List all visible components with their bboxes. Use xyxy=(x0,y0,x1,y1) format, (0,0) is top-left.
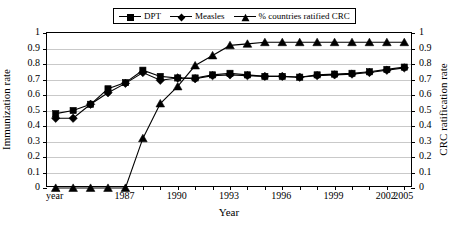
x-axis-title: Year xyxy=(46,206,412,218)
y-left-ticklabel: 0.9 xyxy=(10,43,40,53)
x-ticklabel: 1990 xyxy=(154,190,200,201)
legend-key-triangle xyxy=(234,12,256,21)
x-ticklabel: 1999 xyxy=(311,190,357,201)
series-layer xyxy=(47,33,413,188)
x-ticklabel: 1996 xyxy=(258,190,304,201)
y-right-ticklabel: 0.5 xyxy=(419,105,449,115)
data-point xyxy=(139,134,148,142)
square-marker-icon xyxy=(126,13,135,24)
legend-key-square xyxy=(119,12,141,21)
legend-item-crc: % countries ratified CRC xyxy=(234,12,350,21)
legend-item-measles: Measles xyxy=(170,12,225,21)
y-left-ticklabel: 0.6 xyxy=(10,89,40,99)
y-right-ticklabel: 0.4 xyxy=(419,120,449,130)
y-left-ticklabel: 0.3 xyxy=(10,136,40,146)
y-right-ticklabel: 0.7 xyxy=(419,74,449,84)
triangle-marker-icon xyxy=(241,13,250,24)
data-point xyxy=(208,51,217,59)
series-measles xyxy=(52,64,409,123)
y-left-ticklabel: 0.4 xyxy=(10,120,40,130)
y-tickmark xyxy=(43,188,47,189)
legend-label-crc: % countries ratified CRC xyxy=(259,12,350,21)
x-ticklabel: 1993 xyxy=(206,190,252,201)
y-left-ticklabel: 0.1 xyxy=(10,167,40,177)
legend-item-dpt: DPT xyxy=(119,12,161,21)
y-right-ticklabel: 0.8 xyxy=(419,58,449,68)
y-right-ticklabel: 0.1 xyxy=(419,167,449,177)
y-left-ticklabel: 0.5 xyxy=(10,105,40,115)
diamond-marker-icon xyxy=(177,13,186,24)
plot-area xyxy=(46,32,412,187)
y-right-ticklabel: 1 xyxy=(419,27,449,37)
series-countries-ratified-crc xyxy=(51,38,408,191)
x-ticklabel: 2005 xyxy=(380,190,426,201)
data-point xyxy=(70,107,76,113)
chart-container: DPT Measles % countries ratified CRC Imm… xyxy=(0,0,452,230)
y-right-ticklabel: 0.6 xyxy=(419,89,449,99)
data-point xyxy=(191,61,200,68)
legend-label-dpt: DPT xyxy=(144,12,161,21)
y-left-ticklabel: 1 xyxy=(10,27,40,37)
y-right-ticklabel: 0.9 xyxy=(419,43,449,53)
y-left-ticklabel: 0.8 xyxy=(10,58,40,68)
y-left-ticklabel: 0.7 xyxy=(10,74,40,84)
y-right-ticklabel: 0.3 xyxy=(419,136,449,146)
legend-label-measles: Measles xyxy=(195,12,225,21)
y-left-ticklabel: 0.2 xyxy=(10,151,40,161)
legend-key-diamond xyxy=(170,12,192,21)
y-tickmark xyxy=(411,188,415,189)
chart-legend: DPT Measles % countries ratified CRC xyxy=(113,8,356,24)
y-right-ticklabel: 0.2 xyxy=(419,151,449,161)
